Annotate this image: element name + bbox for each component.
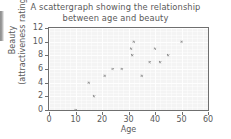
gridline-horizontal: [49, 100, 208, 101]
data-point: [130, 47, 133, 50]
data-point: [74, 109, 77, 112]
chart-title: A scattergraph showing the relationship …: [0, 2, 231, 23]
y-axis-tick: [45, 55, 48, 56]
data-point: [120, 68, 123, 71]
gridline-horizontal: [49, 38, 208, 39]
x-axis-tick-label: 30: [119, 115, 139, 124]
y-axis-title: Beauty (attractiveness rating): [8, 0, 28, 92]
gridline-horizontal: [49, 69, 208, 70]
y-axis-title-line-1: Beauty: [8, 0, 18, 92]
y-axis-title-line-2: (attractiveness rating): [18, 0, 28, 92]
y-axis-tick: [45, 28, 48, 29]
gridline-horizontal: [49, 72, 208, 73]
y-axis-tick-label: 2: [22, 92, 43, 100]
x-axis-tick-label: 60: [198, 115, 218, 124]
y-axis-tick-label: 0: [22, 106, 43, 114]
y-axis-tick: [45, 110, 48, 111]
gridline-horizontal: [49, 35, 208, 36]
gridline-horizontal: [49, 45, 208, 46]
gridline-horizontal: [49, 110, 208, 111]
gridline-horizontal: [49, 90, 208, 91]
y-axis-tick: [45, 42, 48, 43]
gridline-horizontal: [49, 59, 208, 60]
data-point: [131, 54, 134, 57]
data-point: [148, 61, 151, 64]
chart-title-line-2: between age and beauty: [0, 13, 231, 24]
data-point: [140, 74, 143, 77]
x-axis-tick-label: 20: [92, 115, 112, 124]
plot-area: [48, 27, 209, 111]
data-point: [87, 81, 90, 84]
gridline-horizontal: [49, 79, 208, 80]
data-point: [93, 95, 96, 98]
gridline-horizontal: [49, 93, 208, 94]
gridline-horizontal: [49, 49, 208, 50]
data-point: [180, 40, 183, 43]
y-axis-tick: [45, 69, 48, 70]
gridline-horizontal: [49, 76, 208, 77]
gridline-vertical: [208, 28, 209, 110]
data-point: [111, 68, 114, 71]
x-axis-title: Age: [48, 125, 209, 134]
gridline-horizontal: [49, 96, 208, 97]
data-point: [103, 74, 106, 77]
data-point: [159, 61, 162, 64]
gridline-horizontal: [49, 83, 208, 84]
x-axis-tick-label: 0: [39, 115, 59, 124]
gridline-horizontal: [49, 31, 208, 32]
y-axis-tick: [45, 96, 48, 97]
gridline-horizontal: [49, 55, 208, 56]
gridline-horizontal: [49, 86, 208, 87]
gridline-horizontal: [49, 52, 208, 53]
data-point: [167, 54, 170, 57]
data-point: [132, 40, 135, 43]
data-point: [154, 47, 157, 50]
gridline-horizontal: [49, 62, 208, 63]
chart-title-line-1: A scattergraph showing the relationship: [0, 2, 231, 13]
gridline-horizontal: [49, 107, 208, 108]
gridline-horizontal: [49, 103, 208, 104]
x-axis-tick-label: 40: [145, 115, 165, 124]
x-axis-tick-label: 10: [66, 115, 86, 124]
x-axis-tick-label: 50: [172, 115, 192, 124]
gridline-horizontal: [49, 28, 208, 29]
gridline-horizontal: [49, 42, 208, 43]
scattergraph-figure: A scattergraph showing the relationship …: [0, 0, 231, 139]
y-axis-tick: [45, 83, 48, 84]
gridline-horizontal: [49, 66, 208, 67]
